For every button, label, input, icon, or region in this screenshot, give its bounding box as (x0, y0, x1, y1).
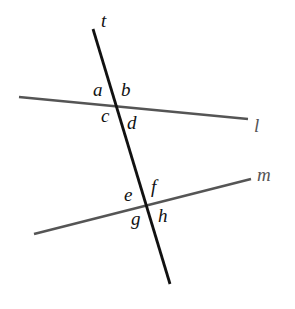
line-t (93, 29, 170, 284)
line-m (34, 179, 251, 234)
angle-e: e (124, 184, 132, 205)
label-m: m (257, 164, 271, 185)
label-l: l (254, 115, 259, 136)
transversal-diagram: t l m a b c d e f g h (0, 0, 295, 309)
angle-a: a (93, 79, 103, 100)
angle-h: h (158, 205, 168, 226)
angle-g: g (131, 208, 141, 229)
angle-d: d (127, 112, 137, 133)
angle-c: c (101, 105, 110, 126)
angle-b: b (121, 79, 131, 100)
angle-f: f (151, 176, 159, 197)
label-t: t (101, 10, 107, 31)
